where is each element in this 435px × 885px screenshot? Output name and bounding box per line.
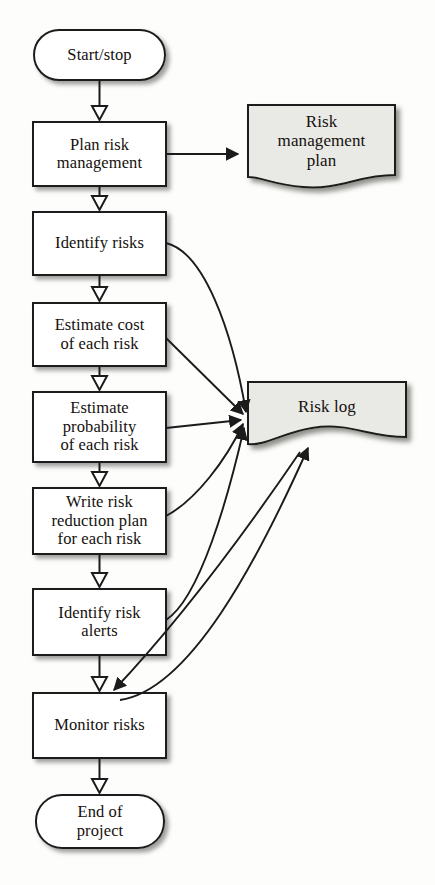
node-identify [33,212,166,275]
edge-probability-risklog [166,420,241,428]
node-monitor [33,693,166,758]
node-probability [33,392,166,462]
node-reduction [33,488,166,554]
node-cost [33,303,166,366]
edge-reduction-risklog [166,424,243,516]
node-alerts [33,589,166,655]
edge-alerts-risklog [166,428,244,620]
edge-monitor-risklog [120,448,308,700]
node-end [36,795,164,848]
flowchart-canvas: Start/stop Plan risk management Identify… [0,0,435,885]
edge-identify-risklog [166,243,246,412]
node-start [34,30,165,80]
node-risk-log [248,382,406,444]
node-plan [33,122,166,186]
flowchart-graphics [0,0,435,885]
node-rm-plan [248,105,395,187]
